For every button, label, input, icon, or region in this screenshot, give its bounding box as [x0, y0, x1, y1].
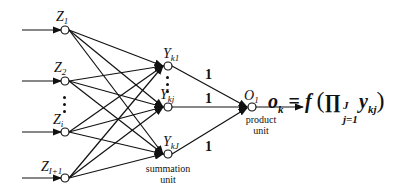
node-z2 — [61, 77, 69, 85]
label-o1: O1 — [244, 89, 259, 105]
node-ykJ — [164, 150, 172, 158]
input-to-summation-edges — [69, 30, 163, 178]
label-ykj: Ykj — [160, 88, 174, 104]
ellipsis-dot — [63, 96, 66, 99]
output-formula: ok = f (∏Jj=1ykj) — [268, 88, 385, 115]
weight-label-1: 1 — [205, 68, 212, 82]
ellipsis-dot — [166, 76, 169, 79]
label-yk1: Yk1 — [163, 47, 179, 63]
label-zI+1: ZI+1 — [41, 160, 62, 176]
label-ykJ: YkJ — [163, 135, 179, 151]
label-zi: Zi — [53, 113, 63, 129]
product-unit-caption: product unit — [236, 114, 286, 136]
label-z1: Z1 — [56, 10, 68, 26]
node-ykj — [164, 103, 172, 111]
node-z1 — [61, 26, 69, 34]
ellipsis-dot — [166, 83, 169, 86]
node-zi — [61, 128, 69, 136]
node-yk1 — [164, 62, 172, 70]
weight-label-2: 1 — [205, 92, 212, 106]
weight-label-3: 1 — [205, 140, 212, 154]
ellipsis-dot — [63, 103, 66, 106]
label-z2: Z2 — [54, 61, 66, 77]
ellipsis-dot — [63, 110, 66, 113]
summation-unit-caption: summation unit — [135, 163, 201, 185]
